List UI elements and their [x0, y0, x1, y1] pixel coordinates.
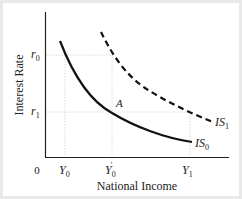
is0-curve	[60, 41, 192, 142]
y0-prime-label: Y0′	[105, 161, 116, 179]
r0-label: r0	[31, 47, 40, 63]
origin-label: 0	[34, 164, 40, 176]
is-curve-chart: Interest Rate National Income 0 r0 r1 Y0…	[0, 0, 242, 199]
r1-label: r1	[31, 104, 40, 120]
is0-label: IS0	[194, 136, 209, 152]
point-a-label: A	[115, 97, 123, 109]
y1-label: Y1	[182, 163, 193, 179]
x-axis-label: National Income	[97, 179, 177, 193]
y0-label: Y0	[59, 163, 70, 179]
is1-label: IS1	[214, 115, 229, 131]
y-axis-label: Interest Rate	[12, 55, 26, 116]
